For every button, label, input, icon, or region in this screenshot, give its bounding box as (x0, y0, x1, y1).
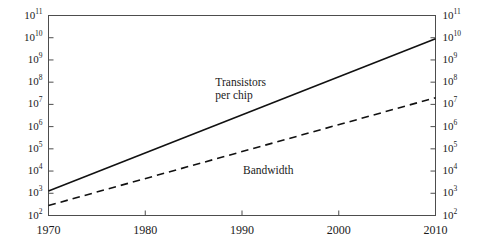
x-axis-tick-label: 1970 (19, 224, 79, 236)
x-axis-tick-label: 1990 (212, 224, 272, 236)
series-annotation-bandwidth: Bandwidth (243, 164, 293, 177)
series-annotation-transistors-line1: Transistors (215, 76, 266, 89)
y-axis-right-tick-label: 1011 (443, 10, 461, 21)
series-annotation-transistors-line2: per chip (215, 89, 266, 102)
y-axis-right-tick-label: 102 (443, 210, 458, 221)
series-line-transistors-per-chip (49, 39, 436, 191)
y-axis-left-tick-label: 1011 (24, 10, 42, 21)
y-axis-right-tick-label: 106 (443, 121, 458, 132)
x-axis-tick-label: 2000 (309, 224, 369, 236)
y-axis-right-tick-label: 105 (443, 143, 458, 154)
y-axis-left-tick-label: 102 (28, 210, 43, 221)
y-axis-left-tick-label: 107 (28, 98, 43, 109)
y-axis-right-tick-label: 103 (443, 187, 458, 198)
axis-ticks (49, 38, 436, 216)
y-axis-right-tick-label: 109 (443, 54, 458, 65)
x-axis-tick-label: 2010 (406, 224, 466, 236)
chart-plot-area (0, 0, 488, 252)
y-axis-left-tick-label: 109 (28, 54, 43, 65)
y-axis-right-tick-label: 107 (443, 98, 458, 109)
y-axis-right-tick-label: 104 (443, 165, 458, 176)
x-axis-tick-label: 1980 (115, 224, 175, 236)
series-annotation-bandwidth-line1: Bandwidth (243, 164, 293, 177)
y-axis-right-tick-label: 1010 (443, 32, 462, 43)
y-axis-left-tick-label: 104 (28, 165, 43, 176)
series-annotation-transistors: Transistors per chip (215, 76, 266, 102)
y-axis-left-tick-label: 1010 (24, 32, 43, 43)
y-axis-left-tick-label: 103 (28, 187, 43, 198)
y-axis-left-tick-label: 106 (28, 121, 43, 132)
data-series (49, 39, 436, 206)
y-axis-right-tick-label: 108 (443, 76, 458, 87)
y-axis-left-tick-label: 105 (28, 143, 43, 154)
y-axis-left-tick-label: 108 (28, 76, 43, 87)
transistors-bandwidth-chart: 1021021031031041041051051061061071071081… (0, 0, 488, 252)
series-line-bandwidth (49, 98, 436, 206)
